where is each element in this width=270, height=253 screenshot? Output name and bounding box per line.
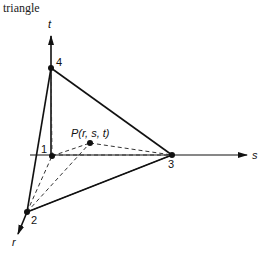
- node-1: [49, 153, 55, 159]
- s-axis-label: s: [252, 149, 258, 161]
- edge-4-3: [51, 68, 172, 155]
- node-1-label: 1: [41, 143, 47, 155]
- edge-4-2: [27, 68, 51, 212]
- node-2: [24, 209, 30, 215]
- labels: t s r 1 2 3 4 P(r, s, t): [12, 18, 258, 248]
- tetrahedron-diagram: t s r 1 2 3 4 P(r, s, t): [0, 0, 270, 253]
- solid-edges: [27, 68, 172, 212]
- r-axis: [18, 212, 27, 234]
- node-4: [48, 65, 54, 71]
- node-3-label: 3: [168, 158, 174, 170]
- edge-2-3: [27, 155, 172, 212]
- edge-p-3: [90, 143, 172, 155]
- node-4-label: 4: [56, 56, 62, 68]
- r-axis-label: r: [12, 236, 17, 248]
- t-axis-label: t: [48, 18, 52, 30]
- node-2-label: 2: [31, 214, 37, 226]
- point-p: [87, 140, 93, 146]
- point-p-label: P(r, s, t): [71, 127, 110, 139]
